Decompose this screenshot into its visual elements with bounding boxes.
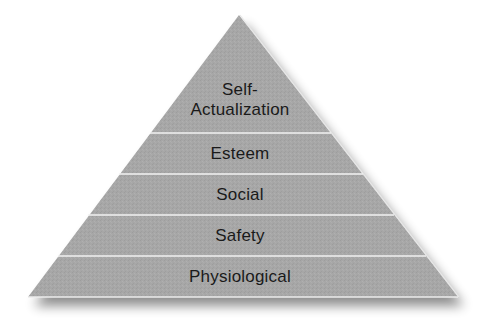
level-safety: Safety	[160, 226, 320, 246]
pyramid-diagram: Self- Actualization Esteem Social Safety…	[0, 0, 492, 325]
level-social: Social	[160, 185, 320, 205]
level-self-actualization: Self- Actualization	[160, 80, 320, 120]
level-physiological: Physiological	[140, 267, 340, 287]
level-esteem: Esteem	[160, 144, 320, 164]
